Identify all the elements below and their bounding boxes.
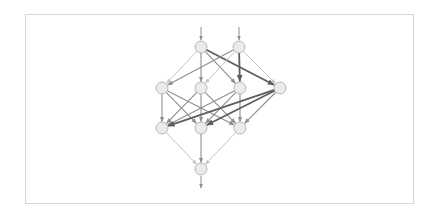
node-hidden-1-b2 bbox=[195, 82, 207, 94]
network-graph bbox=[0, 0, 436, 217]
edge-b4-c3 bbox=[245, 92, 276, 123]
node-output-d1 bbox=[195, 163, 207, 175]
node-hidden-1-b1 bbox=[156, 82, 168, 94]
edge-a2-b4 bbox=[243, 51, 275, 83]
node-hidden-1-b3 bbox=[234, 82, 246, 94]
edge-c3-d1 bbox=[205, 132, 235, 164]
node-hidden-2-c3 bbox=[234, 122, 246, 134]
node-hidden-2-c2 bbox=[195, 122, 207, 134]
edge-a2-b3 bbox=[239, 53, 240, 82]
edges bbox=[162, 50, 276, 165]
node-input-a1 bbox=[195, 41, 207, 53]
node-hidden-1-b4 bbox=[274, 82, 286, 94]
edge-b4-c1 bbox=[168, 90, 274, 126]
node-hidden-2-c1 bbox=[156, 122, 168, 134]
edge-c1-d1 bbox=[166, 132, 196, 164]
edge-a1-b1 bbox=[166, 51, 196, 83]
edge-b4-c2 bbox=[207, 91, 275, 125]
node-input-a2 bbox=[233, 41, 245, 53]
